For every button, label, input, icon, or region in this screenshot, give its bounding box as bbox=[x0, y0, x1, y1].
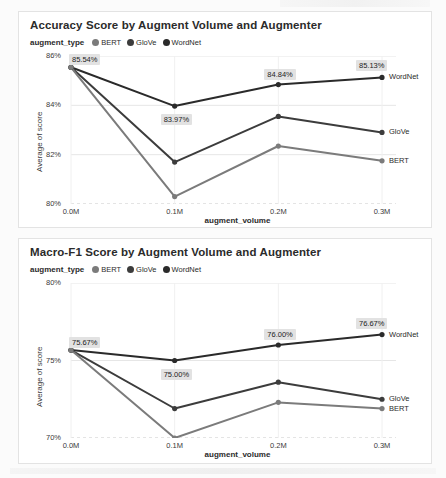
data-label: 75.00% bbox=[161, 369, 192, 380]
gridlines-macrof1 bbox=[71, 283, 396, 438]
data-point-wordnet-1[interactable] bbox=[172, 103, 177, 108]
page-title-accuracy: Accuracy Score by Augment Volume and Aug… bbox=[30, 19, 322, 31]
x-tick-label: 0.3M bbox=[362, 441, 402, 450]
series-label-wordnet: WordNet bbox=[389, 330, 418, 339]
data-point-bert-1[interactable] bbox=[172, 194, 177, 199]
legend-macrof1: augment_type BERT GloVe WordNet bbox=[30, 265, 201, 274]
data-label: 83.97% bbox=[161, 114, 192, 125]
legend-label-bert: BERT bbox=[101, 38, 121, 47]
legend-item-wordnet[interactable]: WordNet bbox=[163, 38, 201, 47]
data-point-glove-2[interactable] bbox=[276, 114, 281, 119]
series-line-glove bbox=[71, 350, 382, 408]
plot-area-accuracy bbox=[65, 56, 410, 204]
x-tick-label: 0.3M bbox=[362, 207, 402, 216]
x-tick-label: 0.1M bbox=[155, 441, 195, 450]
data-label: 85.54% bbox=[69, 54, 100, 65]
data-label: 76.67% bbox=[356, 318, 387, 329]
y-tick-label: 80% bbox=[31, 278, 61, 287]
data-label: 76.00% bbox=[264, 329, 295, 340]
series-label-bert: BERT bbox=[389, 156, 409, 165]
scan-noise-bottom bbox=[10, 468, 436, 474]
y-tick-label: 84% bbox=[31, 100, 61, 109]
data-point-glove-2[interactable] bbox=[276, 380, 281, 385]
series-line-wordnet bbox=[71, 335, 382, 361]
y-tick-label: 82% bbox=[31, 150, 61, 159]
legend-item-glove[interactable]: GloVe bbox=[127, 38, 156, 47]
plot-area-macrof1 bbox=[65, 283, 410, 438]
x-tick-label: 0.0M bbox=[51, 207, 91, 216]
data-label: 75.67% bbox=[69, 337, 100, 348]
data-point-bert-2[interactable] bbox=[276, 143, 281, 148]
x-tick-label: 0.2M bbox=[258, 207, 298, 216]
data-point-bert-0[interactable] bbox=[68, 348, 73, 353]
data-point-wordnet-1[interactable] bbox=[172, 358, 177, 363]
x-axis-title-macrof1: augment_volume bbox=[65, 450, 410, 459]
y-axis-title-accuracy: Average of score bbox=[35, 112, 44, 172]
legend-label-wordnet: WordNet bbox=[172, 265, 201, 274]
gridlines-accuracy bbox=[71, 56, 396, 204]
series-label-bert: BERT bbox=[389, 404, 409, 413]
data-point-bert-3[interactable] bbox=[379, 406, 384, 411]
data-point-wordnet-2[interactable] bbox=[276, 82, 281, 87]
x-tick-label: 0.0M bbox=[51, 441, 91, 450]
y-tick-label: 75% bbox=[31, 356, 61, 365]
legend-item-bert-macrof1[interactable]: BERT bbox=[92, 265, 121, 274]
data-point-glove-1[interactable] bbox=[172, 159, 177, 164]
series-points-macrof1 bbox=[68, 332, 384, 438]
data-point-glove-3[interactable] bbox=[379, 130, 384, 135]
x-tick-label: 0.1M bbox=[155, 207, 195, 216]
legend-title: augment_type bbox=[30, 38, 84, 47]
data-label: 85.13% bbox=[356, 60, 387, 71]
x-tick-label: 0.2M bbox=[258, 441, 298, 450]
x-axis-title-accuracy: augment_volume bbox=[65, 216, 410, 225]
page-background: Accuracy Score by Augment Volume and Aug… bbox=[0, 0, 446, 478]
legend-dot-glove-icon bbox=[127, 266, 134, 273]
legend-label-wordnet: WordNet bbox=[172, 38, 201, 47]
legend-dot-glove-icon bbox=[127, 39, 134, 46]
y-tick-label: 86% bbox=[31, 51, 61, 60]
data-point-bert-2[interactable] bbox=[276, 400, 281, 405]
series-label-glove: GloVe bbox=[389, 394, 409, 403]
data-point-bert-3[interactable] bbox=[379, 158, 384, 163]
legend-dot-bert-icon bbox=[92, 39, 99, 46]
data-point-wordnet-3[interactable] bbox=[379, 75, 384, 80]
legend-label-glove: GloVe bbox=[136, 265, 156, 274]
legend-title-macrof1: augment_type bbox=[30, 265, 84, 274]
legend-dot-bert-icon bbox=[92, 266, 99, 273]
data-point-glove-3[interactable] bbox=[379, 397, 384, 402]
data-point-wordnet-3[interactable] bbox=[379, 332, 384, 337]
legend-item-glove-macrof1[interactable]: GloVe bbox=[127, 265, 156, 274]
legend-dot-wordnet-icon bbox=[163, 39, 170, 46]
series-label-wordnet: WordNet bbox=[389, 72, 418, 81]
legend-label-glove: GloVe bbox=[136, 38, 156, 47]
series-lines-macrof1 bbox=[71, 335, 382, 438]
accuracy-chart-card: Accuracy Score by Augment Volume and Aug… bbox=[18, 11, 432, 228]
series-line-wordnet bbox=[71, 67, 382, 106]
legend-dot-wordnet-icon bbox=[163, 266, 170, 273]
page-title-macrof1: Macro-F1 Score by Augment Volume and Aug… bbox=[30, 246, 321, 258]
accuracy-svg bbox=[65, 56, 410, 204]
legend-accuracy: augment_type BERT GloVe WordNet bbox=[30, 38, 201, 47]
legend-label-bert: BERT bbox=[101, 265, 121, 274]
data-point-wordnet-2[interactable] bbox=[276, 342, 281, 347]
series-line-bert bbox=[71, 350, 382, 438]
series-label-glove: GloVe bbox=[389, 127, 409, 136]
scan-noise-top bbox=[280, 0, 430, 7]
data-label: 84.84% bbox=[264, 69, 295, 80]
macrof1-svg bbox=[65, 283, 410, 438]
series-lines-accuracy bbox=[71, 67, 382, 196]
data-point-glove-1[interactable] bbox=[172, 406, 177, 411]
data-point-bert-0[interactable] bbox=[68, 65, 73, 70]
series-line-bert bbox=[71, 67, 382, 196]
macrof1-chart-card: Macro-F1 Score by Augment Volume and Aug… bbox=[18, 238, 432, 464]
legend-item-wordnet-macrof1[interactable]: WordNet bbox=[163, 265, 201, 274]
legend-item-bert[interactable]: BERT bbox=[92, 38, 121, 47]
